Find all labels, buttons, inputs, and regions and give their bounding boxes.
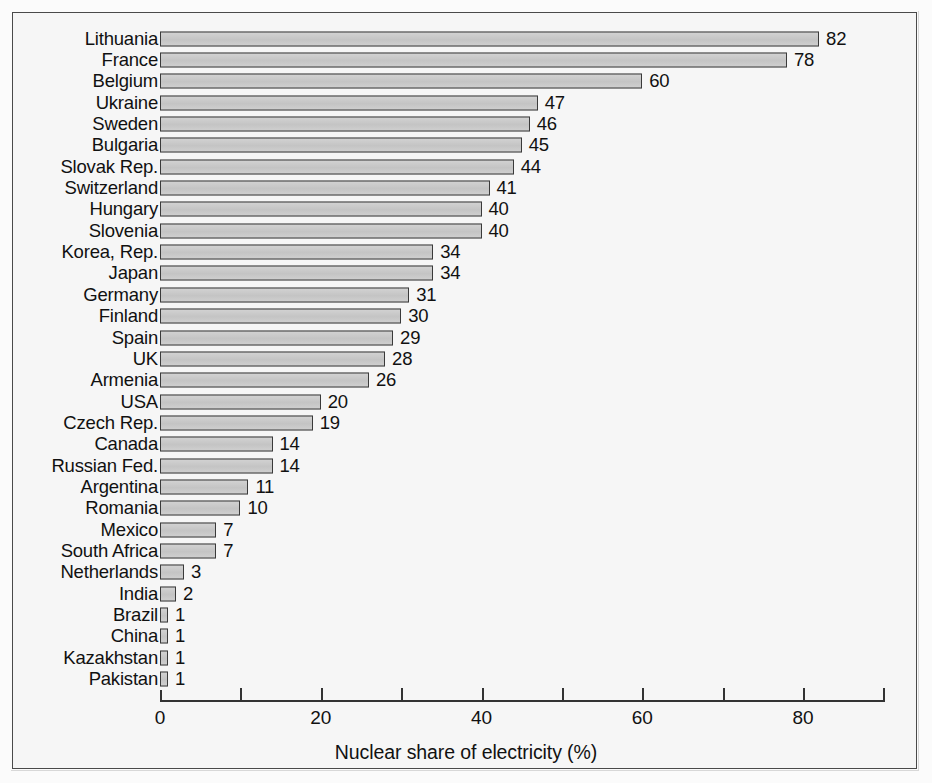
bar-row: Romania10 bbox=[0, 498, 932, 519]
bar-row: Bulgaria45 bbox=[0, 135, 932, 156]
x-axis-tick-label: 80 bbox=[792, 707, 813, 729]
bar bbox=[160, 458, 273, 473]
bar-row: Mexico7 bbox=[0, 519, 932, 540]
category-label: USA bbox=[121, 392, 158, 411]
bar-row: Canada14 bbox=[0, 434, 932, 455]
bar-value-label: 26 bbox=[376, 371, 396, 390]
plot-area: Lithuania82France78Belgium60Ukraine47Swe… bbox=[0, 0, 932, 783]
bar-value-label: 34 bbox=[440, 243, 460, 262]
bar-value-label: 1 bbox=[175, 670, 185, 689]
bar-value-label: 1 bbox=[175, 627, 185, 646]
category-label: Argentina bbox=[81, 478, 158, 497]
category-label: Kazakhstan bbox=[63, 649, 158, 668]
bar bbox=[160, 672, 168, 687]
bar-value-label: 47 bbox=[545, 93, 565, 112]
category-label: Hungary bbox=[89, 200, 158, 219]
x-axis-tick-minor bbox=[240, 688, 242, 701]
category-label: South Africa bbox=[61, 542, 158, 561]
x-axis-tick-major bbox=[321, 688, 323, 701]
x-axis-tick-label: 40 bbox=[471, 707, 492, 729]
category-label: Mexico bbox=[101, 520, 158, 539]
bar bbox=[160, 52, 787, 67]
bar-value-label: 45 bbox=[529, 136, 549, 155]
bar-row: USA20 bbox=[0, 391, 932, 412]
bar-value-label: 2 bbox=[183, 584, 193, 603]
bar-value-label: 60 bbox=[649, 72, 669, 91]
axis-cap-left bbox=[160, 690, 162, 702]
bar-row: India2 bbox=[0, 583, 932, 604]
bar bbox=[160, 202, 482, 217]
x-axis-tick-label: 20 bbox=[310, 707, 331, 729]
bar-value-label: 7 bbox=[223, 542, 233, 561]
x-axis-tick-major bbox=[482, 688, 484, 701]
bar-row: Slovenia40 bbox=[0, 220, 932, 241]
bar-row: Belgium60 bbox=[0, 71, 932, 92]
bar bbox=[160, 117, 530, 132]
category-label: France bbox=[102, 51, 158, 70]
category-label: Ukraine bbox=[96, 93, 158, 112]
bar-row: UK28 bbox=[0, 348, 932, 369]
category-label: Switzerland bbox=[65, 179, 158, 198]
bar bbox=[160, 223, 482, 238]
bar-row: Argentina11 bbox=[0, 476, 932, 497]
bar-value-label: 7 bbox=[223, 520, 233, 539]
bar-value-label: 28 bbox=[392, 350, 412, 369]
bar bbox=[160, 245, 433, 260]
bar-row: Pakistan1 bbox=[0, 669, 932, 690]
x-axis-tick-minor bbox=[883, 688, 885, 701]
bar-row: Czech Rep.19 bbox=[0, 412, 932, 433]
bar-value-label: 30 bbox=[408, 307, 428, 326]
bar bbox=[160, 95, 538, 110]
bar-row: China1 bbox=[0, 626, 932, 647]
bar bbox=[160, 330, 393, 345]
bar-value-label: 20 bbox=[328, 392, 348, 411]
bar-value-label: 40 bbox=[489, 200, 509, 219]
category-label: Korea, Rep. bbox=[61, 243, 158, 262]
x-axis-tick-minor bbox=[723, 688, 725, 701]
bar bbox=[160, 565, 184, 580]
bar-value-label: 10 bbox=[247, 499, 267, 518]
category-label: Slovak Rep. bbox=[60, 157, 158, 176]
bar-row: Sweden46 bbox=[0, 113, 932, 134]
bar bbox=[160, 586, 176, 601]
bar-value-label: 41 bbox=[497, 179, 517, 198]
axis-line bbox=[160, 700, 885, 702]
bar bbox=[160, 309, 401, 324]
bar bbox=[160, 522, 216, 537]
bar-value-label: 14 bbox=[280, 435, 300, 454]
x-axis-title: Nuclear share of electricity (%) bbox=[0, 741, 932, 764]
category-label: Brazil bbox=[113, 606, 158, 625]
bar bbox=[160, 544, 216, 559]
category-label: Canada bbox=[94, 435, 158, 454]
x-axis-tick-major bbox=[803, 688, 805, 701]
bar bbox=[160, 373, 369, 388]
bar-value-label: 14 bbox=[280, 456, 300, 475]
bar bbox=[160, 629, 168, 644]
bar bbox=[160, 31, 819, 46]
bar-row: South Africa7 bbox=[0, 540, 932, 561]
category-label: Armenia bbox=[91, 371, 159, 390]
bar-row: Slovak Rep.44 bbox=[0, 156, 932, 177]
category-label: Spain bbox=[112, 328, 158, 347]
category-label: Finland bbox=[99, 307, 158, 326]
x-axis-tick-major bbox=[642, 688, 644, 701]
bar-value-label: 40 bbox=[489, 222, 509, 241]
bar bbox=[160, 650, 168, 665]
bar-row: Russian Fed.14 bbox=[0, 455, 932, 476]
category-label: India bbox=[119, 584, 158, 603]
bar-row: Hungary40 bbox=[0, 199, 932, 220]
bar bbox=[160, 501, 240, 516]
bar-row: Germany31 bbox=[0, 284, 932, 305]
bar-row: Korea, Rep.34 bbox=[0, 242, 932, 263]
bar bbox=[160, 415, 313, 430]
bar bbox=[160, 287, 409, 302]
bar-row: Spain29 bbox=[0, 327, 932, 348]
bar-row: Lithuania82 bbox=[0, 28, 932, 49]
category-label: Belgium bbox=[93, 72, 158, 91]
bar-value-label: 3 bbox=[191, 563, 201, 582]
category-label: China bbox=[111, 627, 158, 646]
bar bbox=[160, 159, 514, 174]
bar-row: Finland30 bbox=[0, 306, 932, 327]
bar bbox=[160, 266, 433, 281]
bar bbox=[160, 181, 490, 196]
